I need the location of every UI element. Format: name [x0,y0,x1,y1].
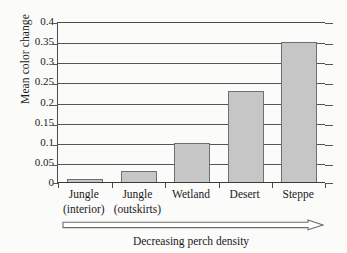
x-tick-label-line1: Desert [230,188,260,200]
y-tick-mark [325,145,333,146]
right-arrow-icon [62,219,324,231]
y-tick-mark [325,44,333,45]
y-tick-mark [325,84,333,85]
x-tick-label-line1: Wetland [172,188,210,200]
y-tick-label: 0.15 [20,115,54,129]
x-tick-mark [325,183,326,188]
x-tick-label-line2: (interior) [57,202,111,217]
y-tick-mark [325,23,333,24]
x-axis-category-labels: Jungle (interior) Jungle (outskirts) Wet… [57,187,325,219]
x-tick-label-wetland: Wetland [164,187,218,202]
bar-desert[interactable] [228,91,264,183]
y-tick-mark [325,183,333,184]
x-tick-label-jungle-outskirts: Jungle (outskirts) [111,187,165,217]
x-axis-baseline [58,182,325,183]
plot-area [57,22,325,183]
y-tick-mark [325,125,333,126]
x-tick-label-jungle-interior: Jungle (interior) [57,187,111,217]
y-tick-label: 0.35 [20,34,54,48]
bar-chart-figure: Mean color change 0.4 0.35 0.3 0.25 0.2 … [0,0,347,253]
y-tick-label: 0.05 [20,155,54,169]
bar-series [58,23,325,183]
y-tick-mark [325,105,333,106]
x-axis-title: Decreasing perch density [57,233,325,249]
bar-steppe[interactable] [281,42,317,183]
y-tick-label: 0.1 [20,135,54,149]
x-tick-label-steppe: Steppe [271,187,325,202]
bar-wetland[interactable] [174,143,210,183]
y-tick-label: 0.3 [20,54,54,68]
y-tick-label: 0.25 [20,74,54,88]
y-axis-tick-labels: 0.4 0.35 0.3 0.25 0.2 0.15 0.1 0.05 0 [20,14,54,189]
x-tick-label-line1: Jungle [122,188,152,200]
y-tick-mark [325,165,333,166]
y-tick-mark [325,64,333,65]
x-tick-label-line1: Steppe [283,188,314,200]
decreasing-perch-density-arrow [62,219,324,231]
y-tick-label: 0.4 [20,14,54,28]
y-tick-label: 0.2 [20,95,54,109]
x-tick-label-line1: Jungle [69,188,99,200]
y-tick-label: 0 [20,175,54,189]
x-tick-label-line2: (outskirts) [111,202,165,217]
x-tick-label-desert: Desert [218,187,272,202]
